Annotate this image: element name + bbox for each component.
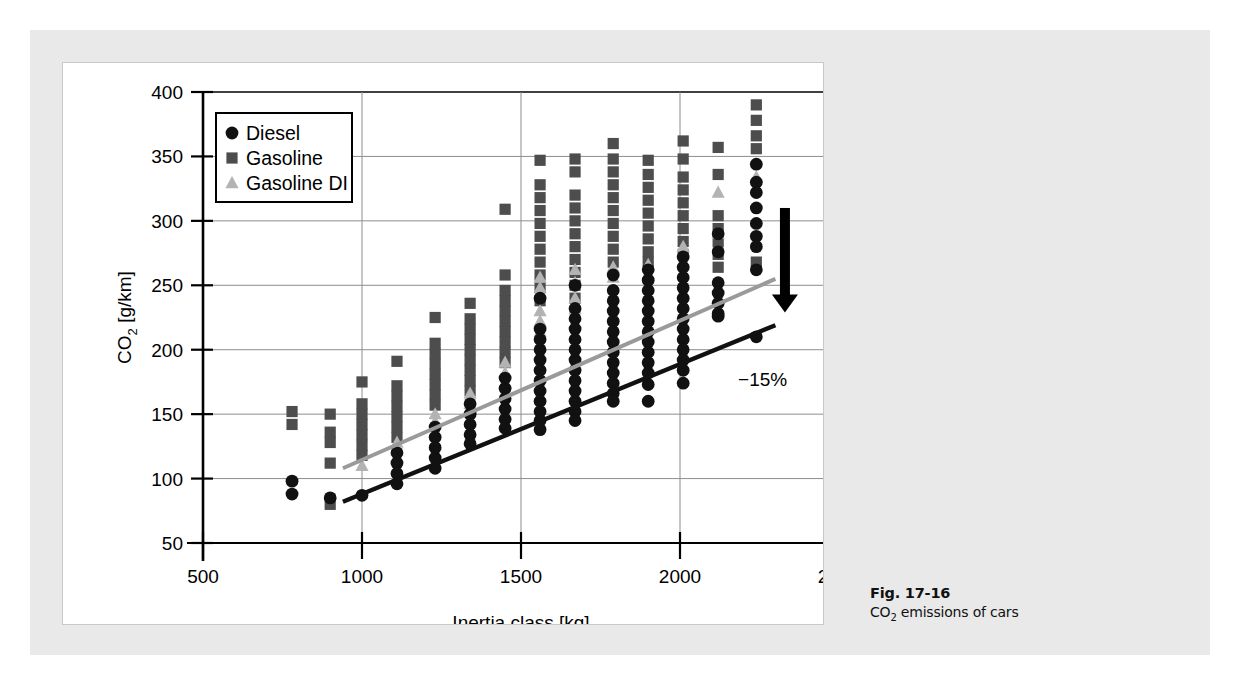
data-point-gasoline (356, 439, 367, 450)
data-point-gasoline (678, 153, 689, 164)
data-point-diesel (750, 217, 763, 230)
data-point-gasoline (608, 138, 619, 149)
x-tick-label: 1500 (500, 566, 542, 587)
data-point-diesel (642, 395, 655, 408)
y-tick-label: 150 (151, 404, 183, 425)
data-point-diesel (534, 292, 547, 305)
y-tick-label: 400 (151, 82, 183, 103)
data-point-gasoline (608, 205, 619, 216)
data-point-gasoline (534, 205, 545, 216)
data-points (286, 99, 763, 510)
data-point-diesel (607, 269, 620, 282)
data-point-gasoline (534, 256, 545, 267)
data-point-gasoline (608, 192, 619, 203)
data-point-gasoline (608, 166, 619, 177)
data-point-gasoline (465, 354, 476, 365)
data-point-gasoline-di (712, 186, 725, 198)
data-point-gasoline (325, 409, 336, 420)
data-point-gasoline (391, 380, 402, 391)
data-point-gasoline (569, 166, 580, 177)
data-point-gasoline (643, 208, 654, 219)
data-point-gasoline (430, 338, 441, 349)
x-tick-label: 2000 (659, 566, 701, 587)
data-point-gasoline (751, 130, 762, 141)
data-point-gasoline (356, 398, 367, 409)
data-point-gasoline (678, 171, 689, 182)
data-point-gasoline (286, 419, 297, 430)
data-point-gasoline (465, 344, 476, 355)
data-point-gasoline (751, 115, 762, 126)
data-point-diesel (569, 279, 582, 292)
data-point-gasoline (643, 195, 654, 206)
data-point-gasoline (534, 218, 545, 229)
data-point-gasoline (569, 189, 580, 200)
data-point-diesel (712, 245, 725, 258)
data-point-gasoline (569, 215, 580, 226)
data-point-gasoline (569, 153, 580, 164)
data-point-gasoline (356, 376, 367, 387)
data-point-gasoline (643, 220, 654, 231)
trend-line (343, 279, 775, 468)
x-axis-title: Inertia class [kg] (452, 612, 589, 624)
data-point-gasoline (643, 155, 654, 166)
data-point-diesel (750, 263, 763, 276)
series-gasoline (286, 99, 761, 510)
data-point-gasoline (391, 411, 402, 422)
data-point-gasoline (534, 155, 545, 166)
caption-text-pre: CO (870, 604, 890, 620)
data-point-gasoline (500, 204, 511, 215)
data-point-gasoline (569, 202, 580, 213)
data-point-diesel (226, 127, 239, 140)
data-point-gasoline (678, 135, 689, 146)
data-point-gasoline (465, 313, 476, 324)
data-point-gasoline (500, 305, 511, 316)
data-point-diesel (569, 414, 582, 427)
data-point-gasoline (286, 406, 297, 417)
data-point-gasoline (534, 244, 545, 255)
arrow-down-icon (772, 208, 798, 313)
y-tick-label: 250 (151, 275, 183, 296)
data-point-gasoline (430, 379, 441, 390)
chart-annotations: −15% (738, 208, 798, 390)
data-point-gasoline (713, 262, 724, 273)
data-point-gasoline (391, 421, 402, 432)
data-point-gasoline (608, 231, 619, 242)
data-point-gasoline (465, 365, 476, 376)
data-point-gasoline (500, 326, 511, 337)
data-point-gasoline (391, 391, 402, 402)
data-point-diesel (286, 475, 299, 488)
data-point-diesel (750, 202, 763, 215)
data-point-gasoline (500, 269, 511, 280)
data-point-diesel (607, 395, 620, 408)
y-tick-label: 350 (151, 146, 183, 167)
data-point-gasoline (430, 369, 441, 380)
reduction-label: −15% (738, 369, 787, 390)
data-point-gasoline (430, 348, 441, 359)
data-point-diesel (677, 377, 690, 390)
data-point-gasoline (751, 99, 762, 110)
data-point-gasoline (678, 210, 689, 221)
trend-line (343, 325, 775, 502)
y-tick-label: 100 (151, 469, 183, 490)
chart-legend[interactable]: DieselGasolineGasoline DI (216, 113, 352, 202)
data-point-gasoline (678, 197, 689, 208)
data-point-gasoline (430, 358, 441, 369)
data-point-gasoline (500, 316, 511, 327)
data-point-gasoline (643, 233, 654, 244)
svg-text:CO2 [g/km]: CO2 [g/km] (114, 271, 140, 364)
legend-label: Diesel (246, 122, 300, 144)
data-point-gasoline (356, 409, 367, 420)
data-point-gasoline (643, 169, 654, 180)
data-point-diesel (712, 227, 725, 240)
data-point-diesel (324, 492, 337, 505)
data-point-diesel (750, 158, 763, 171)
x-tick-label: 1000 (341, 566, 383, 587)
data-point-gasoline (325, 437, 336, 448)
legend-label: Gasoline (246, 147, 323, 169)
x-axis-ticks: 5001000150020002500 (187, 532, 823, 587)
y-tick-label: 200 (151, 340, 183, 361)
y-axis-title: CO2 [g/km] (114, 271, 140, 364)
data-point-gasoline (643, 246, 654, 257)
data-point-gasoline (391, 356, 402, 367)
data-point-gasoline (534, 179, 545, 190)
